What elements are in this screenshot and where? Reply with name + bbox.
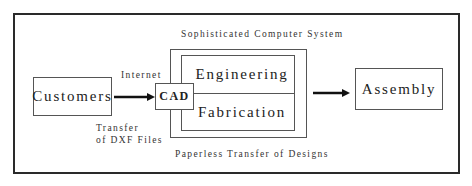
arrows-layer [0, 0, 472, 186]
arrow-system-to-assembly [313, 89, 350, 97]
arrow-customers-to-cad [114, 93, 155, 101]
